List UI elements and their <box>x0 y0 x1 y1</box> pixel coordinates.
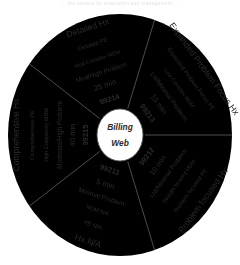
wheel-hub: Billing Web <box>97 109 143 161</box>
sector-99215-code-label: 99215 <box>81 125 90 146</box>
sector-99215-time-label: 40 min <box>68 124 77 147</box>
sector-99215-mdm-label: High Complexity MDM <box>43 108 49 162</box>
sector-99215-pe-label: Comprehensive PE <box>29 110 35 160</box>
scan-page: ... the content for evaluation and manag… <box>0 0 240 265</box>
sector-99215-problem-label: Moderate/High Problem <box>56 101 64 169</box>
hub-label-line2: Web <box>111 138 129 148</box>
scan-header-text: ... the content for evaluation and manag… <box>0 0 240 7</box>
billing-web-wheel: 9921540 minModerate/High ProblemHigh Com… <box>0 8 240 263</box>
sector-99215-hx-label: Comprehensive Hx <box>11 98 21 172</box>
hub-label-line1: Billing <box>107 122 133 132</box>
